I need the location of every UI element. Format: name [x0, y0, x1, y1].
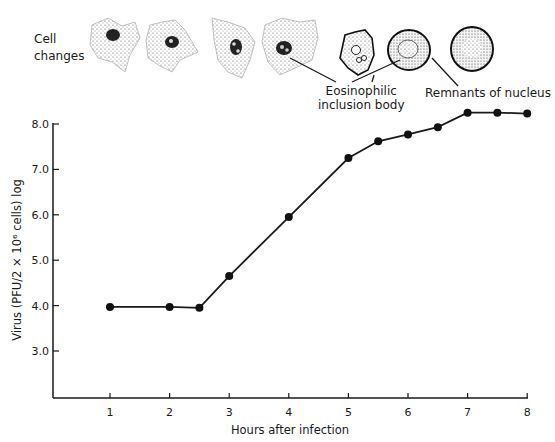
y-tick-label: 4.0	[32, 300, 50, 313]
x-tick-label: 3	[226, 406, 233, 419]
x-tick-label: 2	[166, 406, 173, 419]
x-tick-label: 7	[464, 406, 471, 419]
chart-axes	[53, 123, 528, 398]
x-tick-label: 8	[524, 406, 531, 419]
x-tick-label: 4	[285, 406, 292, 419]
x-tick-label: 5	[345, 406, 352, 419]
data-point	[344, 154, 352, 162]
data-point	[493, 109, 501, 117]
y-tick-label: 3.0	[32, 345, 50, 358]
y-tick-label: 7.0	[32, 163, 50, 176]
x-tick-label: 6	[405, 406, 412, 419]
series-virus-titer	[106, 109, 531, 312]
x-axis-title: Hours after infection	[231, 423, 349, 437]
y-ticks: 3.04.05.06.07.08.0	[32, 118, 60, 358]
series-line	[110, 113, 527, 308]
data-point	[464, 109, 472, 117]
data-point	[434, 123, 442, 131]
data-point	[285, 213, 293, 221]
x-ticks: 12345678	[107, 393, 531, 419]
data-point	[374, 137, 382, 145]
y-tick-label: 8.0	[32, 118, 50, 131]
data-point	[106, 303, 114, 311]
data-point	[195, 304, 203, 312]
data-point	[166, 303, 174, 311]
y-tick-label: 5.0	[32, 254, 50, 267]
y-tick-label: 6.0	[32, 209, 50, 222]
data-point	[404, 130, 412, 138]
data-point	[523, 110, 531, 118]
data-point	[225, 272, 233, 280]
line-chart: 3.04.05.06.07.08.0 12345678 Hours after …	[0, 0, 555, 442]
y-axis-title: Virus (PFU/2 × 10⁶ cells) log	[10, 179, 24, 340]
x-tick-label: 1	[107, 406, 114, 419]
